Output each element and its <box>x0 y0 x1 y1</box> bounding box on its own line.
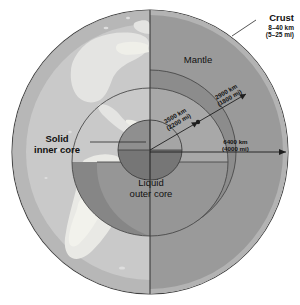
crust-label-km: 8–40 km <box>232 24 294 31</box>
outer-core-label-line2: outer core <box>110 189 192 200</box>
north-america-highlight <box>116 42 149 55</box>
island-dot-6 <box>126 17 130 19</box>
dim-6400-mi: (4000 mi) <box>222 146 249 153</box>
inner-core-label-line2: inner core <box>20 145 94 156</box>
island-dot-5 <box>104 27 109 30</box>
crust-label-title: Crust <box>232 13 294 24</box>
mantle-label: Mantle <box>168 55 228 66</box>
crust-label-mi: (5–25 mi) <box>232 31 294 38</box>
earth-cross-section-figure: Crust 8–40 km (5–25 mi) Mantle Solid inn… <box>0 0 300 305</box>
inner-core-label: Solid inner core <box>20 134 94 155</box>
island-dot-4 <box>119 266 125 269</box>
crust-label: Crust 8–40 km (5–25 mi) <box>232 13 294 38</box>
outer-core-label: Liquid outer core <box>110 178 192 199</box>
dimension-label-earth-radius: 6400 km (4000 mi) <box>222 139 249 153</box>
island-dot-3 <box>44 177 47 179</box>
